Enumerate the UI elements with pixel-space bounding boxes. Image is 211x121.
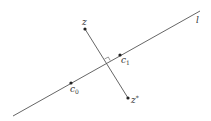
c1-sub: 1: [126, 59, 130, 66]
zstar-sup: *: [136, 94, 139, 101]
reflection-diagram: l z z* c1 c0: [0, 0, 211, 121]
point-c0-label: c0: [70, 84, 79, 95]
point-zstar: [126, 96, 129, 99]
right-angle-marker: [105, 57, 111, 61]
point-z-label: z: [81, 17, 87, 27]
point-zstar-label: z*: [130, 94, 139, 105]
point-c1-label: c1: [121, 55, 130, 66]
point-z: [83, 27, 86, 30]
line-l-label: l: [196, 15, 199, 25]
c0-sub: 0: [75, 88, 79, 95]
